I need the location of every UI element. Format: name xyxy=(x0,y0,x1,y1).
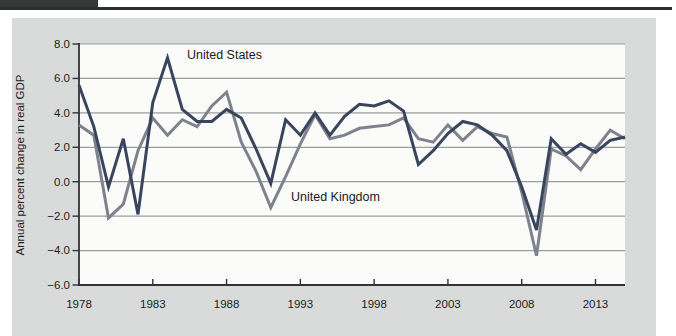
figure-page: 8.06.04.02.00.0−2.0−4.0−6.01978198319881… xyxy=(0,0,676,336)
x-tick-label: 1993 xyxy=(288,298,314,310)
x-tick-label: 2003 xyxy=(435,298,461,310)
x-tick-label: 2008 xyxy=(509,298,535,310)
y-tick-label: 2.0 xyxy=(54,141,70,153)
y-tick-label: 6.0 xyxy=(54,72,70,84)
x-tick-label: 1988 xyxy=(214,298,240,310)
gdp-growth-line-chart: 8.06.04.02.00.0−2.0−4.0−6.01978198319881… xyxy=(0,0,676,336)
y-tick-label: −4.0 xyxy=(47,244,70,256)
y-tick-label: 8.0 xyxy=(54,38,70,50)
y-tick-label: 0.0 xyxy=(54,176,70,188)
x-tick-label: 1978 xyxy=(66,298,92,310)
y-tick-label: 4.0 xyxy=(54,107,70,119)
x-tick-label: 2013 xyxy=(583,298,609,310)
series-label-united-states: United States xyxy=(187,48,262,62)
x-tick-label: 1983 xyxy=(140,298,166,310)
y-axis-title: Annual percent change in real GDP xyxy=(14,48,28,282)
y-tick-label: −2.0 xyxy=(47,210,70,222)
series-label-united-kingdom: United Kingdom xyxy=(291,190,380,204)
x-tick-label: 1998 xyxy=(361,298,387,310)
y-tick-label: −6.0 xyxy=(47,279,70,291)
